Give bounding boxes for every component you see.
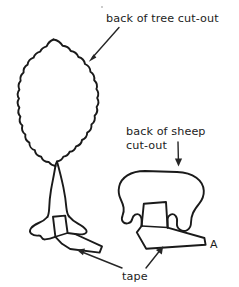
print-speck xyxy=(101,6,103,8)
sheep-label-text-line2: cut-out xyxy=(126,139,167,152)
plate-label: A xyxy=(210,238,218,251)
tape-label-text: tape xyxy=(122,270,148,283)
diagram-background xyxy=(0,0,239,287)
tree-label-text: back of tree cut-out xyxy=(106,12,219,25)
craft-diagram: back of tree cut-out back of sheep cut-o… xyxy=(0,0,239,287)
sheep-label-text-line1: back of sheep xyxy=(126,125,206,138)
